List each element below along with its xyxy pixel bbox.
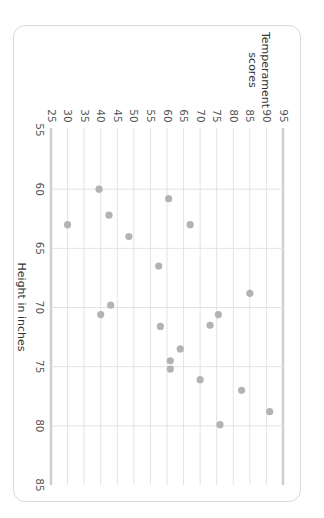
data-point: [215, 311, 222, 318]
tick-labels: 2530354045505560657075808590955560657075…: [34, 109, 290, 491]
data-point: [155, 262, 162, 269]
data-point: [216, 421, 223, 428]
height-tick-label: 55: [34, 123, 46, 136]
score-tick-label: 50: [128, 109, 140, 122]
score-tick-label: 90: [261, 109, 273, 122]
score-tick-label: 75: [211, 109, 223, 122]
score-tick-label: 25: [46, 109, 58, 122]
score-tick-label: 70: [195, 109, 207, 122]
x-axis-title: Height in inches: [15, 263, 28, 352]
score-tick-label: 60: [162, 109, 174, 122]
y-axis-title-line2: scores: [246, 52, 259, 88]
data-point: [177, 345, 184, 352]
score-tick-label: 40: [95, 109, 107, 122]
score-tick-label: 35: [79, 109, 91, 122]
score-tick-label: 45: [112, 109, 124, 122]
data-point: [64, 221, 71, 228]
x-axis-title-text: Height in inches: [15, 263, 28, 352]
grid-lines: [51, 128, 283, 485]
data-point: [157, 323, 164, 330]
height-tick-label: 85: [34, 478, 46, 491]
data-point: [165, 195, 172, 202]
data-point: [238, 387, 245, 394]
height-tick-label: 70: [34, 301, 46, 314]
data-point: [167, 357, 174, 364]
data-point: [97, 311, 104, 318]
scatter-chart: 2530354045505560657075808590955560657075…: [0, 0, 324, 518]
score-tick-label: 55: [145, 109, 157, 122]
score-tick-label: 85: [244, 109, 256, 122]
y-axis-title: Temperament scores: [246, 31, 272, 109]
score-tick-label: 80: [228, 109, 240, 122]
data-point: [197, 376, 204, 383]
score-tick-label: 65: [178, 109, 190, 122]
data-point: [107, 302, 114, 309]
height-tick-label: 60: [34, 182, 46, 195]
height-tick-label: 80: [34, 419, 46, 432]
data-point: [187, 221, 194, 228]
data-point: [105, 212, 112, 219]
height-tick-label: 75: [34, 360, 46, 373]
data-point: [167, 365, 174, 372]
y-axis-title-line1: Temperament: [259, 31, 272, 109]
height-tick-label: 65: [34, 242, 46, 255]
data-point: [266, 408, 273, 415]
data-point: [246, 290, 253, 297]
data-point: [206, 322, 213, 329]
data-point: [95, 186, 102, 193]
data-point: [125, 233, 132, 240]
score-tick-label: 95: [278, 109, 290, 122]
data-points: [64, 186, 273, 429]
score-tick-label: 30: [62, 109, 74, 122]
